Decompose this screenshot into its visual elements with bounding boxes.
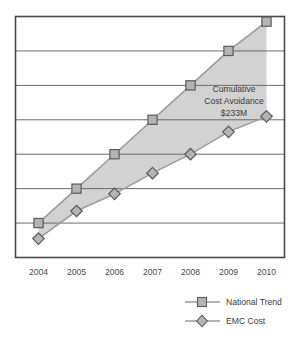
x-axis-tick-label: 2008 [181, 267, 200, 277]
data-point-marker [110, 150, 119, 159]
annotation-line-2: Cost Avoidance [204, 96, 264, 106]
data-point-marker [262, 17, 271, 26]
legend-square-marker-icon [198, 298, 207, 307]
x-axis-tick-label: 2004 [29, 267, 48, 277]
cost-avoidance-line-chart: 2004200520062007200820092010 Cumulative … [0, 0, 300, 338]
data-point-marker [148, 115, 157, 124]
annotation-line-1: Cumulative [213, 84, 256, 94]
x-axis-tick-label: 2007 [143, 267, 162, 277]
annotation-line-3: $233M [221, 108, 247, 118]
x-axis-tick-label: 2005 [67, 267, 86, 277]
x-axis-tick-label: 2009 [219, 267, 238, 277]
data-point-marker [186, 81, 195, 90]
legend-label-emc-cost: EMC Cost [226, 316, 266, 326]
legend-item-national-trend: National Trend [185, 297, 282, 307]
chart-container: 2004200520062007200820092010 Cumulative … [0, 0, 300, 338]
data-point-marker [34, 218, 43, 227]
legend-label-national-trend: National Trend [226, 297, 282, 307]
data-point-marker [224, 46, 233, 55]
x-axis-tick-label: 2010 [257, 267, 276, 277]
data-point-marker [72, 184, 81, 193]
x-axis-tick-label: 2006 [105, 267, 124, 277]
